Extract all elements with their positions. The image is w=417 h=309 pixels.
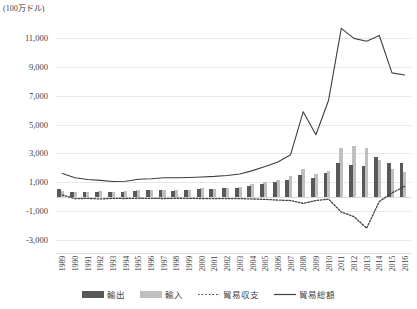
legend-label: 貿易総額 bbox=[299, 288, 335, 300]
x-axis-tick-label: 2005 bbox=[261, 256, 270, 271]
legend-swatch-export bbox=[82, 291, 104, 298]
x-axis-tick-label: 1996 bbox=[147, 256, 156, 271]
x-axis-tick-label: 2016 bbox=[401, 256, 410, 271]
x-axis-tick-label: 1989 bbox=[58, 256, 67, 271]
legend-item: 貿易収支 bbox=[198, 288, 259, 300]
y-axis-tick-label: -1,000 bbox=[26, 206, 48, 216]
x-axis-tick-label: 2006 bbox=[274, 256, 283, 271]
plot-area bbox=[56, 24, 411, 254]
x-axis-tick-label: 1997 bbox=[160, 256, 169, 271]
x-axis-tick-label: 2012 bbox=[350, 256, 359, 271]
line-total-trade bbox=[62, 28, 404, 181]
y-axis-tick-label: 11,000 bbox=[25, 33, 48, 43]
y-axis-tick-label: 5,000 bbox=[29, 120, 48, 130]
x-axis-tick-label: 1998 bbox=[172, 256, 181, 271]
legend-label: 輸入 bbox=[165, 288, 183, 300]
x-axis-tick-labels: 1989199019911992199319941995199619971998… bbox=[56, 256, 411, 286]
legend-item: 貿易総額 bbox=[274, 288, 335, 300]
x-axis-tick-label: 2015 bbox=[388, 256, 397, 271]
x-axis-tick-label: 2002 bbox=[223, 256, 232, 271]
y-axis-tick-label: 9,000 bbox=[29, 62, 48, 72]
chart-legend: 輸出輸入貿易収支貿易総額 bbox=[0, 288, 417, 300]
legend-label: 輸出 bbox=[107, 288, 125, 300]
x-axis-tick-label: 2008 bbox=[299, 256, 308, 271]
x-axis-tick-label: 2001 bbox=[210, 256, 219, 271]
x-axis-tick-label: 2010 bbox=[325, 256, 334, 271]
x-axis-tick-label: 1994 bbox=[122, 256, 131, 271]
x-axis-tick-label: 1990 bbox=[71, 256, 80, 271]
x-axis-tick-label: 2000 bbox=[198, 256, 207, 271]
x-axis-tick-label: 2013 bbox=[363, 256, 372, 271]
y-axis-tick-label: -3,000 bbox=[26, 235, 48, 245]
legend-swatch-total-trade bbox=[274, 291, 296, 298]
y-axis-tick-labels: 11,0009,0007,0005,0003,0001,000-1,000-3,… bbox=[0, 24, 52, 254]
x-axis-tick-label: 1999 bbox=[185, 256, 194, 271]
x-axis-tick-label: 1995 bbox=[134, 256, 143, 271]
line-trade-balance bbox=[62, 186, 404, 228]
x-axis-tick-label: 2014 bbox=[375, 256, 384, 271]
y-axis-tick-label: 1,000 bbox=[29, 177, 48, 187]
legend-item: 輸入 bbox=[140, 288, 183, 300]
legend-swatch-import bbox=[140, 291, 162, 298]
legend-label: 貿易収支 bbox=[223, 288, 259, 300]
x-axis-tick-label: 2009 bbox=[312, 256, 321, 271]
legend-item: 輸出 bbox=[82, 288, 125, 300]
y-axis-tick-label: 7,000 bbox=[29, 91, 48, 101]
y-axis-unit-caption: (100万ドル) bbox=[3, 2, 44, 13]
x-axis-tick-label: 1993 bbox=[109, 256, 118, 271]
legend-swatch-trade-balance bbox=[198, 291, 220, 298]
x-axis-line bbox=[56, 253, 411, 254]
y-axis-tick-label: 3,000 bbox=[29, 148, 48, 158]
x-axis-tick-label: 2003 bbox=[236, 256, 245, 271]
chart-container: (100万ドル) 11,0009,0007,0005,0003,0001,000… bbox=[0, 0, 417, 309]
lines-layer bbox=[56, 24, 411, 254]
x-axis-tick-label: 2004 bbox=[249, 256, 258, 271]
x-axis-tick-label: 1992 bbox=[96, 256, 105, 271]
x-axis-tick-label: 2007 bbox=[287, 256, 296, 271]
x-axis-tick-label: 1991 bbox=[84, 256, 93, 271]
x-axis-tick-label: 2011 bbox=[337, 256, 346, 271]
